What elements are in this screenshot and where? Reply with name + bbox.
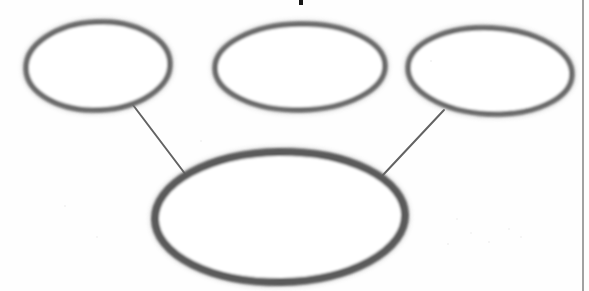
oval-top-middle[interactable] [214,23,385,112]
scan-speck [520,236,522,238]
concept-web-diagram [0,0,589,291]
scan-speck [456,218,458,220]
scan-speck [200,140,202,142]
scan-speck [96,236,98,238]
oval-center-main[interactable] [154,150,406,284]
scan-speck [488,241,490,243]
scanned-page [0,0,589,291]
scan-speck [508,228,510,230]
scan-speck [447,243,449,245]
cropped-glyph-fragment [299,0,303,5]
scan-speck [64,205,66,207]
scan-speck [430,60,432,62]
scan-speck [470,232,472,234]
